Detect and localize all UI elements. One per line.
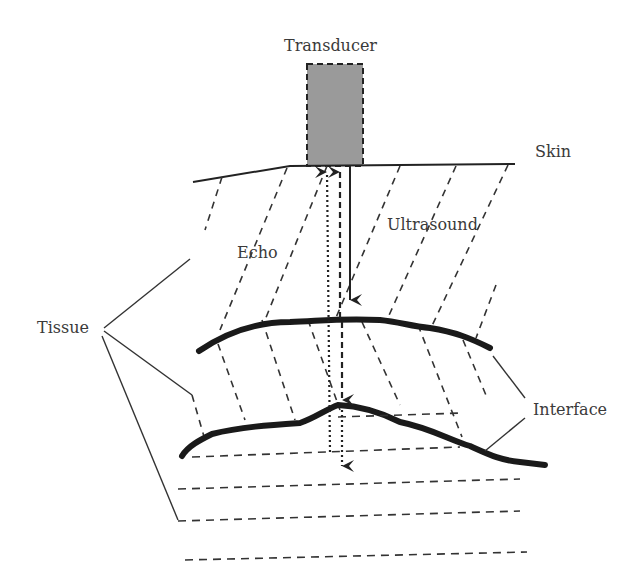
transducer-probe [307, 64, 363, 166]
label-transducer: Transducer [284, 38, 377, 54]
label-skin: Skin [535, 144, 571, 160]
interface-leader-lines [485, 356, 525, 451]
label-tissue: Tissue [37, 320, 89, 336]
skin-line [193, 164, 515, 182]
interface-1 [199, 319, 490, 351]
ultrasound-diagram [0, 0, 642, 585]
deep-tissue-lines [178, 413, 527, 560]
label-interface: Interface [533, 402, 607, 418]
tissue-leader-lines [102, 259, 192, 520]
label-ultrasound: Ultrasound [387, 217, 478, 233]
label-echo: Echo [237, 245, 278, 261]
